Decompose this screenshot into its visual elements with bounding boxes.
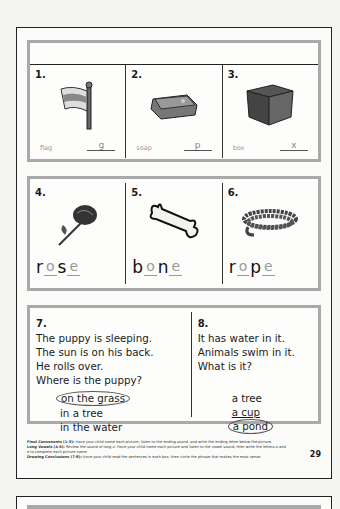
exercise-number: 8. bbox=[198, 317, 312, 331]
picture-word: flag bbox=[40, 144, 52, 152]
box-header bbox=[30, 43, 318, 65]
word-to-complete: r o p e bbox=[229, 257, 275, 276]
answer-option[interactable]: a cup bbox=[228, 406, 264, 419]
rope-icon bbox=[240, 207, 300, 237]
exercise-5: 5. b o n e bbox=[125, 183, 221, 284]
instruction-text: Have your child name each picture, liste… bbox=[74, 440, 272, 444]
answer-option[interactable]: a tree bbox=[228, 392, 266, 405]
answer-line[interactable]: x bbox=[280, 140, 308, 151]
workbook-page: 1. flag g 2. soap p bbox=[16, 27, 332, 479]
story-line: It has water in it. bbox=[198, 331, 312, 345]
instruction-text: Have your child read the sentences in ea… bbox=[82, 455, 262, 459]
answer-option-circled[interactable]: on the grass bbox=[56, 391, 130, 406]
exercise-number: 4. bbox=[35, 187, 46, 198]
instruction-label: Long Vowels (4-6): bbox=[27, 445, 65, 449]
exercise-number: 7. bbox=[36, 317, 185, 331]
story-line: He rolls over. bbox=[36, 359, 185, 373]
bone-icon bbox=[146, 199, 202, 243]
long-vowels-box: 4. r o s e 5. bbox=[27, 176, 321, 291]
box-icon bbox=[243, 81, 297, 127]
answer-option[interactable]: in the water bbox=[56, 421, 126, 434]
page-number: 29 bbox=[310, 450, 321, 459]
exercise-1: 1. flag g bbox=[30, 65, 125, 158]
exercise-4: 4. r o s e bbox=[30, 183, 125, 284]
story-line: Animals swim in it. bbox=[198, 345, 312, 359]
story-line: What is it? bbox=[198, 359, 312, 373]
story-line: The sun is on his back. bbox=[36, 345, 185, 359]
instruction-label: Final Consonants (1-3): bbox=[27, 440, 74, 444]
exercise-number: 2. bbox=[131, 69, 142, 80]
picture-word: soap bbox=[136, 144, 151, 152]
instruction-label: Drawing Conclusions (7-8): bbox=[27, 455, 82, 459]
instruction-text: Review the sound of long o. Have your ch… bbox=[27, 445, 286, 454]
instructions-footer: Final Consonants (1-3): Have your child … bbox=[27, 440, 287, 460]
exercise-number: 1. bbox=[35, 69, 46, 80]
rose-icon bbox=[55, 201, 101, 249]
answer-option[interactable]: in a tree bbox=[56, 407, 107, 420]
exercise-6: 6. r o p e bbox=[222, 183, 318, 284]
next-page bbox=[16, 496, 332, 509]
exercise-7: 7. The puppy is sleeping. The sun is on … bbox=[30, 312, 191, 417]
drawing-conclusions-box: 7. The puppy is sleeping. The sun is on … bbox=[27, 305, 321, 424]
next-page-box-border bbox=[27, 505, 321, 509]
word-to-complete: r o s e bbox=[36, 257, 80, 276]
soap-icon bbox=[147, 89, 201, 123]
story-line: Where is the puppy? bbox=[36, 373, 185, 387]
answer-line[interactable]: p bbox=[184, 140, 212, 151]
answer-line[interactable]: g bbox=[87, 140, 115, 151]
picture-word: box bbox=[233, 144, 245, 152]
exercise-8: 8. It has water in it. Animals swim in i… bbox=[191, 312, 318, 417]
word-to-complete: b o n e bbox=[132, 257, 182, 276]
exercise-2: 2. soap p bbox=[125, 65, 221, 158]
flag-icon bbox=[53, 81, 103, 131]
final-consonants-box: 1. flag g 2. soap p bbox=[27, 40, 321, 162]
answer-option-circled[interactable]: a pond bbox=[228, 419, 273, 434]
exercise-number: 6. bbox=[228, 187, 239, 198]
exercise-number: 5. bbox=[131, 187, 142, 198]
exercise-3: 3. box x bbox=[222, 65, 318, 158]
story-line: The puppy is sleeping. bbox=[36, 331, 185, 345]
exercise-number: 3. bbox=[228, 69, 239, 80]
